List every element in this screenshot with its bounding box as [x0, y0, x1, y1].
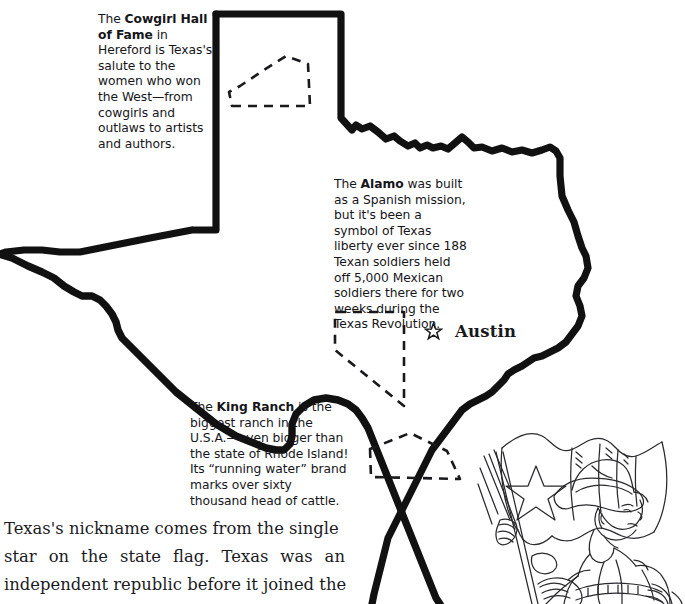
texas-map-page: The Cowgirl Hall of Fame in Hereford is …	[0, 0, 685, 604]
motion-line-4	[480, 468, 498, 514]
hand-finger-1	[540, 583, 566, 587]
cowboy-hand-upper	[531, 553, 556, 574]
pole-grip-band-2	[498, 531, 514, 536]
cowboy-hat-band	[576, 485, 632, 494]
flag-top-edge	[502, 434, 662, 457]
body-line-3: independent republic before it joined th…	[4, 571, 349, 599]
note-lead: The	[190, 400, 217, 414]
cowboy-hat-crown	[572, 460, 634, 492]
note-body: was built as a Spanish mission, but it's…	[334, 177, 467, 331]
cowboy-hat-dent	[592, 466, 612, 478]
rhode-island-outline	[229, 56, 310, 106]
body-word: flag.	[173, 543, 209, 571]
star-icon	[424, 322, 443, 341]
body-word: star	[4, 543, 37, 571]
body-copy: Texas's nickname comes from the single s…	[4, 515, 349, 599]
body-word: the	[81, 543, 108, 571]
note-alamo: The Alamo was built as a Spanish mission…	[334, 177, 468, 333]
note-keyword: Alamo	[361, 177, 404, 191]
capital-marker-austin: Austin	[424, 322, 516, 341]
jacket-lapel	[598, 562, 604, 604]
cowboy-brow	[622, 505, 633, 507]
note-lead: The	[98, 12, 125, 26]
note-keyword: King Ranch	[217, 400, 295, 414]
flag-bottom-edge	[552, 528, 654, 541]
flag-crease-3	[617, 450, 619, 508]
body-word: was	[280, 543, 312, 571]
cowboy-belt-lower	[576, 593, 662, 602]
note-cowgirl-hall-of-fame: The Cowgirl Hall of Fame in Hereford is …	[98, 12, 222, 152]
note-king-ranch: The King Ranch is the biggest ranch in t…	[190, 400, 350, 509]
body-word: Texas	[222, 543, 269, 571]
note-lead: The	[334, 177, 361, 191]
flag-crease-4	[635, 456, 637, 506]
note-body: in Hereford is Texas's salute to the wom…	[98, 28, 212, 151]
lasso-tail	[672, 592, 682, 604]
cowboy-with-texas-flag-illustration	[476, 424, 685, 604]
body-line-1: Texas's nickname comes from the single	[4, 515, 349, 543]
flag-ripple-1	[576, 452, 582, 468]
body-word: on	[49, 543, 69, 571]
hand-finger-2	[542, 589, 568, 593]
flag-right-edge	[654, 442, 667, 532]
body-word: an	[325, 543, 345, 571]
jacket-collar-left	[578, 554, 590, 576]
pole-grip-band-1	[499, 524, 515, 529]
motion-line-5	[478, 484, 492, 524]
flag-ripple-2	[606, 448, 612, 459]
jacket-placket	[616, 560, 622, 604]
body-line-2: star on the state flag. Texas was an	[4, 543, 345, 571]
note-body: is the biggest ranch in the U.S.A.—even …	[190, 400, 348, 508]
capital-label: Austin	[455, 322, 516, 341]
body-word: state	[120, 543, 161, 571]
